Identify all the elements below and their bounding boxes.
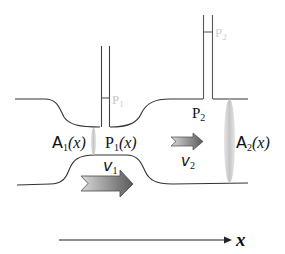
velocity-2-label: v2 bbox=[181, 152, 195, 171]
pipe-pressure-1-label: P1(x) bbox=[105, 134, 137, 153]
area-a2-label: A2(x) bbox=[236, 133, 270, 153]
pipe-pressure-2-label: P2 bbox=[192, 105, 205, 123]
x-axis-label: x bbox=[235, 229, 246, 250]
cross-section-a1 bbox=[91, 128, 96, 155]
tube-1-pressure-label: P1 bbox=[112, 92, 124, 109]
venturi-diagram: P1 P2 P2 A1(x) P1(x) A2(x) v1 v2 x bbox=[0, 0, 285, 254]
pressure-tube-2 bbox=[204, 15, 213, 99]
velocity-arrow-2-icon bbox=[171, 133, 203, 150]
pipe-bottom-wall bbox=[17, 155, 248, 185]
area-a1-label: A1(x) bbox=[52, 133, 86, 153]
x-axis-arrow bbox=[59, 237, 232, 244]
pressure-tube-1 bbox=[102, 46, 110, 127]
velocity-1-label: v1 bbox=[103, 156, 117, 176]
cross-section-a2 bbox=[224, 99, 235, 183]
pipe-top-wall bbox=[15, 99, 248, 127]
tube-2-pressure-label: P2 bbox=[215, 25, 227, 42]
